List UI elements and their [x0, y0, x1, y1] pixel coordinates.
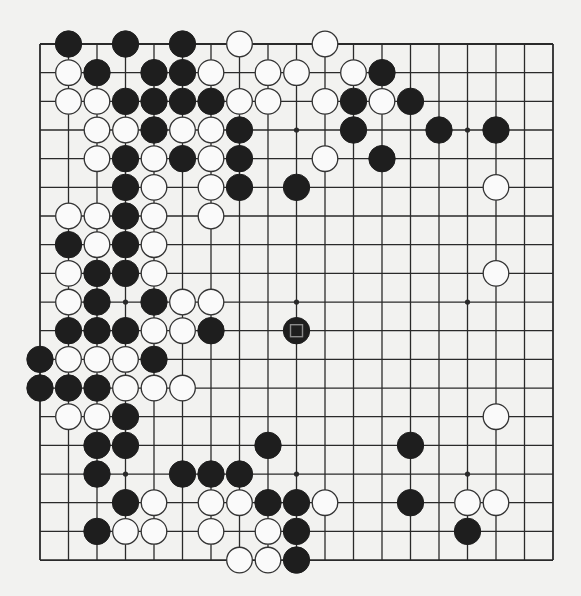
white-stone — [113, 375, 139, 401]
black-stone — [169, 59, 195, 85]
white-stone — [56, 289, 82, 315]
black-stone — [112, 31, 138, 57]
star-point — [123, 299, 128, 304]
white-stone — [84, 203, 110, 229]
white-stone — [56, 261, 82, 287]
black-stone — [340, 88, 366, 114]
white-stone — [170, 318, 196, 344]
black-stone — [255, 432, 281, 458]
black-stone — [198, 318, 224, 344]
white-stone — [141, 175, 167, 201]
white-stone — [56, 203, 82, 229]
white-stone — [56, 60, 82, 86]
white-stone — [84, 347, 110, 373]
star-point — [294, 299, 299, 304]
black-stone — [169, 31, 195, 57]
white-stone — [455, 490, 481, 516]
black-stone — [255, 490, 281, 516]
white-stone — [56, 347, 82, 373]
white-stone — [198, 519, 224, 545]
black-stone — [84, 318, 110, 344]
black-stone — [55, 318, 81, 344]
black-stone — [84, 518, 110, 544]
black-stone — [84, 432, 110, 458]
white-stone — [141, 490, 167, 516]
black-stone — [283, 174, 309, 200]
star-point — [294, 471, 299, 476]
black-stone — [226, 461, 252, 487]
black-stone — [141, 88, 167, 114]
black-stone — [84, 59, 110, 85]
white-stone — [141, 261, 167, 287]
black-stone — [27, 346, 53, 372]
white-stone — [227, 89, 253, 115]
black-stone — [283, 490, 309, 516]
black-stone — [226, 174, 252, 200]
white-stone — [255, 89, 281, 115]
black-stone — [112, 404, 138, 430]
white-stone — [369, 89, 395, 115]
star-point — [465, 471, 470, 476]
black-stone — [84, 461, 110, 487]
white-stone — [56, 404, 82, 430]
white-stone — [141, 318, 167, 344]
white-stone — [198, 175, 224, 201]
white-stone — [227, 490, 253, 516]
black-stone — [283, 518, 309, 544]
white-stone — [113, 519, 139, 545]
star-point — [465, 127, 470, 132]
black-stone — [112, 203, 138, 229]
white-stone — [255, 519, 281, 545]
black-stone — [397, 432, 423, 458]
white-stone — [170, 289, 196, 315]
black-stone — [340, 117, 366, 143]
black-stone — [283, 547, 309, 573]
black-stone — [483, 117, 509, 143]
star-point — [123, 471, 128, 476]
white-stone — [84, 89, 110, 115]
black-stone — [112, 318, 138, 344]
black-stone — [112, 145, 138, 171]
black-stone — [141, 117, 167, 143]
star-point — [465, 299, 470, 304]
white-stone — [56, 89, 82, 115]
black-stone — [426, 117, 452, 143]
white-stone — [170, 117, 196, 143]
black-stone — [84, 375, 110, 401]
black-stone — [84, 260, 110, 286]
black-stone — [112, 260, 138, 286]
black-stone — [84, 289, 110, 315]
white-stone — [141, 519, 167, 545]
white-stone — [170, 375, 196, 401]
black-stone — [112, 432, 138, 458]
black-stone — [141, 289, 167, 315]
white-stone — [198, 117, 224, 143]
white-stone — [227, 31, 253, 57]
black-stone — [454, 518, 480, 544]
white-stone — [141, 203, 167, 229]
white-stone — [483, 175, 509, 201]
white-stone — [84, 117, 110, 143]
black-stone — [112, 174, 138, 200]
white-stone — [113, 347, 139, 373]
white-stone — [312, 490, 338, 516]
black-stone — [397, 490, 423, 516]
black-stone — [226, 145, 252, 171]
black-stone — [169, 88, 195, 114]
white-stone — [483, 490, 509, 516]
black-stone — [141, 346, 167, 372]
black-stone — [27, 375, 53, 401]
black-stone — [369, 59, 395, 85]
white-stone — [341, 60, 367, 86]
black-stone — [141, 59, 167, 85]
black-stone — [169, 145, 195, 171]
black-stone — [55, 31, 81, 57]
white-stone — [198, 203, 224, 229]
white-stone — [84, 232, 110, 258]
white-stone — [483, 261, 509, 287]
white-stone — [198, 146, 224, 172]
white-stone — [113, 117, 139, 143]
white-stone — [284, 60, 310, 86]
white-stone — [198, 289, 224, 315]
go-board — [0, 0, 581, 596]
